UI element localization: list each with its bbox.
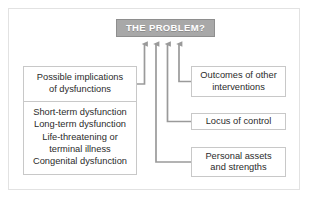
connector-left-box [137,44,145,84]
title-box[interactable]: THE PROBLEM? [116,19,215,37]
connector-personal-assets [156,44,191,162]
list-item: Short-term dysfunction [29,106,131,118]
dysfunction-list: Short-term dysfunction Long-term dysfunc… [24,102,136,170]
personal-assets-and-strengths-label: Personal assets and strengths [205,151,271,174]
locus-of-control-box[interactable]: Locus of control [191,113,286,130]
title-box-label: THE PROBLEM? [126,22,205,34]
personal-assets-and-strengths-box[interactable]: Personal assets and strengths [191,147,286,177]
list-item: Congenital dysfunction [29,155,131,167]
list-item: Life-threatening or terminal illness [29,131,131,155]
diagram-canvas: THE PROBLEM? Possible implications of dy… [0,0,309,199]
possible-implications-header-label: Possible implications of dysfunctions [29,72,131,95]
outcomes-of-other-interventions-label: Outcomes of other interventions [200,70,276,93]
list-item: Long-term dysfunction [29,118,131,130]
locus-of-control-label: Locus of control [206,116,272,127]
outcomes-of-other-interventions-box[interactable]: Outcomes of other interventions [191,66,286,97]
possible-implications-header: Possible implications of dysfunctions [24,67,136,102]
connector-outcomes [179,44,191,82]
possible-implications-box[interactable]: Possible implications of dysfunctions Sh… [23,66,137,175]
